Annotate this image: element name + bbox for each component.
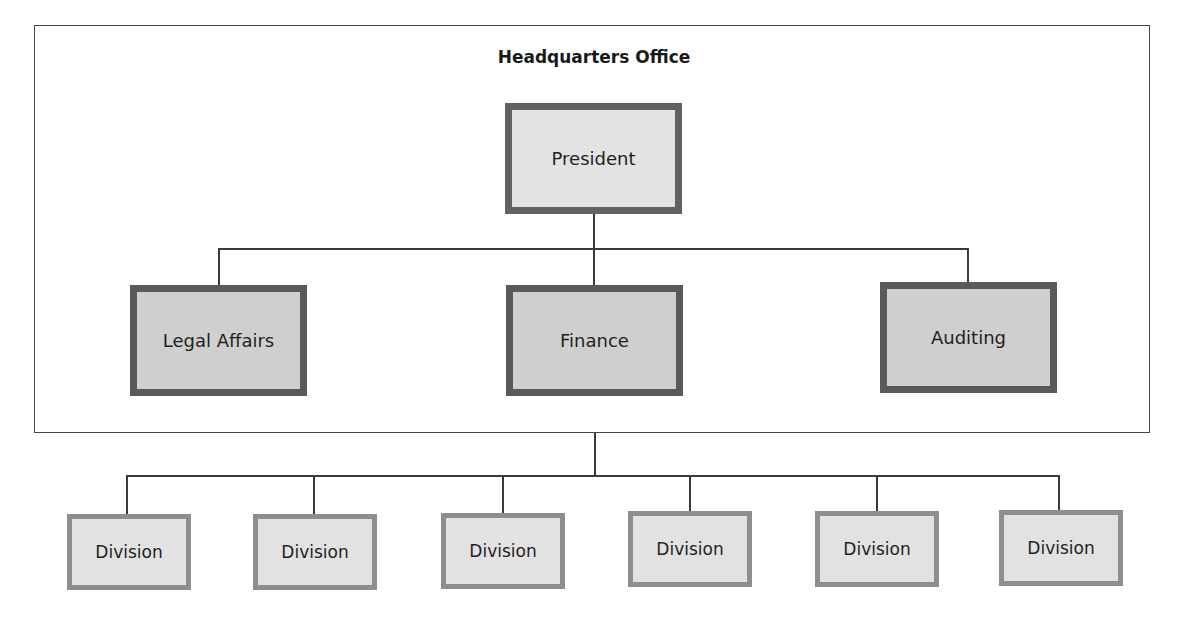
- connector-hq-down: [594, 433, 596, 476]
- connector-divisions-horizontal: [126, 475, 1060, 477]
- division-label: Division: [469, 541, 536, 561]
- division-label: Division: [843, 539, 910, 559]
- department-box-legal-affairs: Legal Affairs: [130, 285, 307, 396]
- president-box: President: [505, 103, 682, 214]
- department-label: Finance: [560, 330, 629, 351]
- connector-president-down: [593, 214, 595, 285]
- division-label: Division: [281, 542, 348, 562]
- department-box-finance: Finance: [506, 285, 683, 396]
- department-label: Legal Affairs: [163, 330, 275, 351]
- connector-legal-affairs: [218, 248, 220, 285]
- division-box-2: Division: [253, 514, 377, 590]
- division-box-4: Division: [628, 511, 752, 587]
- connector-division-3: [502, 475, 504, 513]
- connector-departments-horizontal: [218, 248, 968, 250]
- division-box-5: Division: [815, 511, 939, 587]
- connector-division-6: [1058, 475, 1060, 511]
- connector-division-5: [876, 475, 878, 511]
- department-box-auditing: Auditing: [880, 282, 1057, 393]
- connector-division-1: [126, 475, 128, 514]
- division-box-1: Division: [67, 514, 191, 590]
- connector-division-4: [689, 475, 691, 511]
- division-label: Division: [95, 542, 162, 562]
- connector-division-2: [313, 475, 315, 514]
- department-label: Auditing: [931, 327, 1006, 348]
- connector-auditing: [967, 248, 969, 282]
- president-label: President: [552, 148, 636, 169]
- division-label: Division: [1027, 538, 1094, 558]
- division-box-6: Division: [999, 510, 1123, 586]
- headquarters-office-title: Headquarters Office: [0, 47, 1188, 67]
- division-label: Division: [656, 539, 723, 559]
- division-box-3: Division: [441, 513, 565, 589]
